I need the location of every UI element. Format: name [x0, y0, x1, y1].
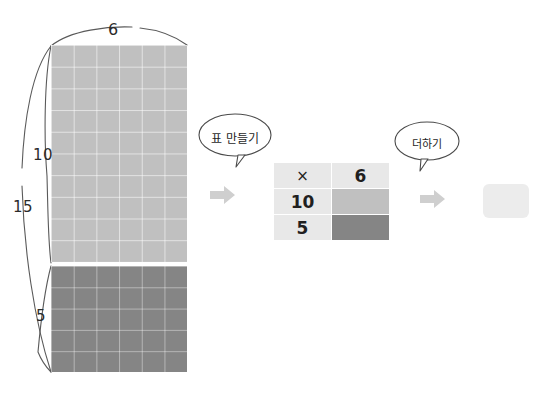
right-arrow-icon — [210, 186, 236, 204]
area-model-group: 6 10 15 5 — [0, 0, 210, 395]
area-total-height-label: 15 — [13, 198, 33, 216]
multiplication-table: × 6 10 5 — [273, 162, 390, 241]
right-arrow-2 — [420, 190, 446, 212]
area-block-lower — [51, 266, 187, 372]
area-upper-height-label: 10 — [33, 146, 53, 164]
diagram-canvas: 6 10 15 5 표 만들기 × 6 10 5 — [0, 0, 550, 395]
table-cell-operator: × — [274, 163, 332, 189]
table-cell-row-label-5: 5 — [274, 215, 332, 241]
area-lower-height-label: 5 — [36, 307, 46, 325]
table-cell-multiplier: 6 — [332, 163, 390, 189]
speech-bubble-add-label: 더하기 — [392, 135, 462, 151]
table-row: × 6 — [274, 163, 390, 189]
speech-bubble-add: 더하기 — [392, 120, 462, 172]
area-block-upper — [51, 45, 187, 262]
table-cell-product-upper[interactable] — [332, 189, 390, 215]
table-row: 10 — [274, 189, 390, 215]
area-top-width-label: 6 — [108, 20, 119, 39]
table-cell-row-label-10: 10 — [274, 189, 332, 215]
right-arrow-icon — [420, 190, 446, 208]
speech-bubble-make-table-label: 표 만들기 — [196, 129, 274, 146]
table-cell-product-lower[interactable] — [332, 215, 390, 241]
result-answer-box[interactable] — [483, 184, 529, 218]
table-row: 5 — [274, 215, 390, 241]
speech-bubble-make-table: 표 만들기 — [196, 112, 274, 168]
right-arrow-1 — [210, 186, 236, 208]
